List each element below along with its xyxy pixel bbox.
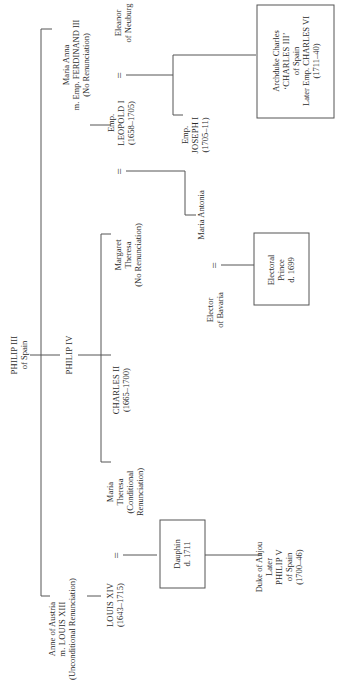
node-label: of Spain: [19, 326, 29, 384]
node-label: Theresa: [115, 460, 125, 524]
marriage-symbol: =: [209, 262, 220, 268]
node-label: PHILIP III: [9, 326, 19, 384]
node-duke-of-anjou: Duke of Anjou Later PHILIP V of Spain (1…: [254, 534, 304, 600]
node-label: (1643–1715): [115, 577, 125, 633]
node-label: ‘CHARLES III’: [281, 6, 291, 116]
node-elector-of-bavaria: Elector of Bavaria: [205, 287, 225, 333]
node-label: of Spain: [284, 534, 294, 600]
node-label: d. 1699: [286, 246, 296, 294]
node-maria-anna: Maria Anna m. Emp. FERDINAND III (No Ren…: [61, 10, 91, 120]
marriage-symbol: =: [114, 72, 125, 78]
node-maria-theresa: Maria Theresa (Conditional Renunciation): [105, 460, 145, 524]
node-label: Emp.: [106, 90, 116, 156]
node-margaret-theresa: Margaret Theresa (No Renunciation): [113, 217, 143, 293]
node-label: (Conditional: [125, 460, 135, 524]
node-joseph-i: Emp. JOSEPH I (1705–11): [180, 111, 210, 159]
node-label: Elector: [205, 287, 215, 333]
node-label: (No Renunciation): [133, 217, 143, 293]
node-label: (1658–1705): [126, 90, 136, 156]
node-label: of Spain: [291, 6, 301, 116]
node-label: Duke of Anjou: [254, 534, 264, 600]
node-label: Margaret: [113, 217, 123, 293]
node-label: (1665–1700): [121, 362, 131, 418]
node-anne-of-austria: Anne of Austria m. LOUIS XIII (Unconditi…: [47, 564, 77, 684]
node-label: CHARLES II: [111, 362, 121, 418]
node-label: of Neuburg: [123, 0, 133, 48]
node-philip-iii: PHILIP III of Spain: [9, 326, 29, 384]
node-label: Renunciation): [135, 460, 145, 524]
node-label: Electoral: [266, 246, 276, 294]
node-label: Eleanor: [113, 0, 123, 48]
node-label: Theresa: [123, 217, 133, 293]
node-eleanor-of-neuburg: Eleanor of Neuburg: [113, 0, 133, 48]
node-electoral-prince: Electoral Prince d. 1699: [266, 246, 296, 294]
node-label: (Unconditional Renunciation): [67, 564, 77, 684]
node-label: Emp.: [180, 111, 190, 159]
node-label: JOSEPH I: [190, 111, 200, 159]
node-label: Maria Antonia: [196, 187, 206, 243]
node-philip-iv: PHILIP IV: [64, 326, 74, 384]
node-label: Dauphin: [172, 529, 182, 579]
node-label: Maria Anna: [61, 10, 71, 120]
node-charles-ii: CHARLES II (1665–1700): [111, 362, 131, 418]
node-archduke-charles: Archduke Charles ‘CHARLES III’ of Spain …: [271, 6, 321, 116]
node-label: of Bavaria: [215, 287, 225, 333]
node-label: Anne of Austria: [47, 564, 57, 684]
node-dauphin: Dauphin d. 1711: [172, 529, 192, 579]
node-label: LEOPOLD I: [116, 90, 126, 156]
node-label: Prince: [276, 246, 286, 294]
node-leopold-i: Emp. LEOPOLD I (1658–1705): [106, 90, 136, 156]
marriage-symbol: =: [111, 552, 122, 558]
node-label: Later: [264, 534, 274, 600]
node-label: Maria: [105, 460, 115, 524]
node-louis-xiv: LOUIS XIV (1643–1715): [105, 577, 125, 633]
node-label: m. Emp. FERDINAND III: [71, 10, 81, 120]
node-label: (No Renunciation): [81, 10, 91, 120]
node-label: (1705–11): [200, 111, 210, 159]
node-label: d. 1711: [182, 529, 192, 579]
node-label: LOUIS XIV: [105, 577, 115, 633]
node-maria-antonia: Maria Antonia: [196, 187, 206, 243]
node-label: (1700–46): [294, 534, 304, 600]
node-label: Archduke Charles: [271, 6, 281, 116]
node-label: (1711–40): [311, 6, 321, 116]
marriage-symbol: =: [114, 168, 125, 174]
node-label: PHILIP IV: [64, 326, 74, 384]
node-label: Later Emp. CHARLES VI: [301, 6, 311, 116]
node-label: m. LOUIS XIII: [57, 564, 67, 684]
node-label: PHILIP V: [274, 534, 284, 600]
